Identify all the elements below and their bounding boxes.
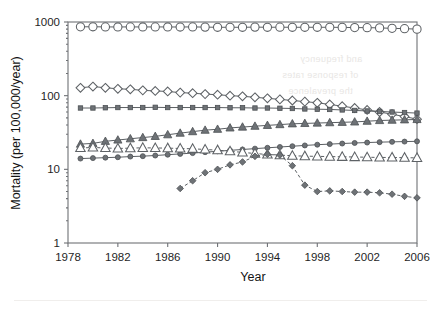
- data-point: [153, 105, 157, 109]
- data-point: [362, 152, 372, 161]
- data-point: [202, 169, 209, 176]
- data-point: [226, 91, 235, 100]
- data-point: [240, 106, 244, 110]
- y-tick-label: 1000: [34, 16, 60, 28]
- data-point: [201, 23, 209, 31]
- data-point: [113, 84, 122, 93]
- data-point: [78, 156, 83, 161]
- data-point: [213, 145, 223, 154]
- x-tick-label: 1990: [205, 251, 231, 263]
- data-point: [313, 23, 321, 31]
- data-point: [213, 90, 222, 99]
- data-point: [300, 151, 310, 160]
- data-point: [176, 23, 184, 31]
- x-tick-label: 1982: [105, 251, 131, 263]
- data-point: [328, 107, 332, 111]
- data-point: [203, 105, 207, 109]
- data-point: [176, 88, 185, 97]
- data-point: [303, 107, 307, 111]
- data-point: [288, 151, 298, 160]
- x-tick-label: 1978: [55, 251, 81, 263]
- data-point: [126, 143, 136, 152]
- data-point: [76, 23, 84, 31]
- data-point: [302, 143, 307, 148]
- data-point: [263, 23, 271, 31]
- data-point: [114, 23, 122, 31]
- x-axis-tick-labels: 19781982198619901994199820022006: [55, 251, 430, 263]
- data-point: [226, 23, 234, 31]
- data-point: [101, 23, 109, 31]
- data-point: [276, 23, 284, 31]
- data-point: [103, 106, 107, 110]
- x-tick-label: 1994: [255, 251, 281, 263]
- data-point: [263, 94, 272, 103]
- data-point: [163, 143, 173, 152]
- data-point: [387, 152, 397, 161]
- data-point: [128, 105, 132, 109]
- data-point: [313, 119, 321, 126]
- data-point: [327, 142, 332, 147]
- data-point: [163, 87, 172, 96]
- data-point: [290, 106, 294, 110]
- data-point: [288, 96, 297, 105]
- data-point: [352, 140, 357, 145]
- data-point: [188, 89, 197, 98]
- data-point: [103, 155, 108, 160]
- data-point: [337, 152, 347, 161]
- data-point: [153, 153, 158, 158]
- data-point: [315, 107, 319, 111]
- data-point: [400, 153, 410, 162]
- data-point: [302, 182, 309, 189]
- y-axis-tick-labels: 1000100101: [34, 16, 60, 249]
- data-point: [350, 152, 360, 161]
- data-point: [390, 139, 395, 144]
- data-point: [189, 23, 197, 31]
- data-point: [326, 23, 334, 31]
- data-point: [377, 109, 381, 113]
- data-point: [151, 23, 159, 31]
- data-point: [340, 108, 344, 112]
- data-point: [126, 23, 134, 31]
- data-point: [139, 23, 147, 31]
- data-point: [351, 23, 359, 31]
- data-point: [290, 144, 295, 149]
- y-axis-ticks: [64, 22, 68, 243]
- data-point: [377, 140, 382, 145]
- data-point: [301, 119, 309, 126]
- data-point: [401, 193, 408, 200]
- series-all-causes: [76, 23, 421, 34]
- data-point: [376, 190, 383, 197]
- data-point: [201, 90, 210, 99]
- data-point: [339, 188, 346, 195]
- data-point: [415, 139, 420, 144]
- data-point: [141, 105, 145, 109]
- data-point: [365, 140, 370, 145]
- data-point: [116, 105, 120, 109]
- data-point: [188, 144, 198, 153]
- data-point: [363, 24, 371, 32]
- series-series-open-diamond: [76, 82, 421, 123]
- figure-container: and frequency of response rates the prev…: [0, 0, 441, 309]
- data-point: [414, 195, 421, 202]
- data-point: [376, 116, 384, 123]
- data-point: [164, 23, 172, 31]
- data-point: [352, 108, 356, 112]
- data-point: [89, 23, 97, 31]
- data-point: [238, 23, 246, 31]
- data-point: [325, 152, 335, 161]
- x-tick-label: 1998: [304, 251, 330, 263]
- data-point: [126, 85, 135, 94]
- data-point: [151, 143, 161, 152]
- data-point: [376, 24, 384, 32]
- data-point: [178, 105, 182, 109]
- data-point: [251, 93, 260, 102]
- data-point: [138, 86, 147, 95]
- data-point: [89, 82, 98, 91]
- data-point: [338, 118, 346, 125]
- footer-divider: [14, 300, 427, 301]
- data-point: [166, 105, 170, 109]
- data-point: [138, 143, 148, 152]
- y-tick-label: 100: [41, 90, 60, 102]
- data-point: [190, 105, 194, 109]
- data-point: [338, 23, 346, 31]
